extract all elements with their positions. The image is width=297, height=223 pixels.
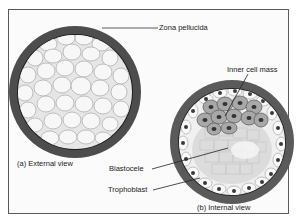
trophoblast-label: Trophoblast [108, 186, 147, 194]
inner-cell-mass-label: Inner cell mass [227, 66, 277, 74]
blastocyst-diagram [0, 0, 297, 223]
zona-pellucida-label: Zona pellucida [159, 24, 208, 32]
blastocele-label: Blastocele [109, 165, 144, 173]
internal-view-sphere [170, 80, 294, 204]
external-view-caption: (a) External view [17, 160, 73, 168]
internal-view-caption: (b) Internal view [197, 204, 250, 212]
external-view-sphere [9, 26, 141, 158]
